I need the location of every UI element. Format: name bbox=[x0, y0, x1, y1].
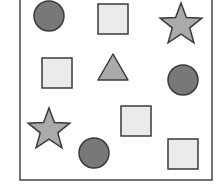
circle-shape bbox=[79, 138, 109, 168]
circle-shape bbox=[34, 1, 64, 31]
shapes-diagram bbox=[0, 0, 218, 196]
star-shape bbox=[28, 108, 70, 148]
triangle-shape bbox=[98, 54, 128, 80]
square-shape bbox=[98, 4, 128, 34]
square-shape bbox=[42, 58, 72, 88]
square-shape bbox=[121, 106, 151, 136]
square-shape bbox=[168, 139, 198, 169]
circle-shape bbox=[168, 65, 198, 95]
star-shape bbox=[160, 3, 202, 43]
